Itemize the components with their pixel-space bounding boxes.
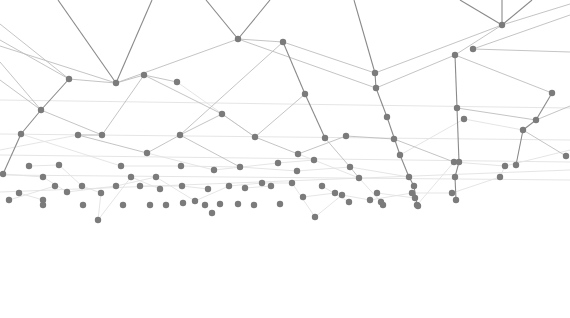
network-node [251,202,257,208]
network-node [98,190,104,196]
network-node [128,174,134,180]
network-node [452,174,458,180]
network-node [179,183,185,189]
network-node [66,76,72,82]
network-node [205,186,211,192]
network-node [380,202,386,208]
network-node [18,131,24,137]
network-node [289,180,295,186]
network-node [346,199,352,205]
network-node [397,152,403,158]
network-node [456,159,462,165]
network-node [113,80,119,86]
network-node [461,116,467,122]
network-node [372,70,378,76]
network-node [268,183,274,189]
network-node [549,90,555,96]
network-node [452,52,458,58]
network-node [312,214,318,220]
network-node [302,91,308,97]
network-node [38,107,44,113]
network-node [533,117,539,123]
network-node [513,162,519,168]
network-node [384,114,390,120]
network-node [412,195,418,201]
network-node [275,160,281,166]
network-node [332,190,338,196]
network-node [453,197,459,203]
network-node [95,217,101,223]
network-node [497,174,503,180]
network-node [311,157,317,163]
network-node [300,194,306,200]
network-node [147,202,153,208]
network-node [192,198,198,204]
network-node [157,186,163,192]
network-node [75,132,81,138]
network-node [235,201,241,207]
network-node [120,202,126,208]
network-node [237,164,243,170]
network-graphic [0,0,570,318]
plexus-network-svg [0,0,570,318]
network-node [277,201,283,207]
network-node [174,79,180,85]
network-node [211,167,217,173]
network-node [339,192,345,198]
network-node [16,190,22,196]
network-node [209,210,215,216]
network-node [180,200,186,206]
network-node [322,135,328,141]
network-node [118,163,124,169]
network-node [217,201,223,207]
network-node [178,163,184,169]
network-node [226,183,232,189]
network-node [79,183,85,189]
network-node [0,171,6,177]
network-node [319,183,325,189]
network-node [499,22,505,28]
network-node [454,105,460,111]
network-node [177,132,183,138]
network-node [374,190,380,196]
network-node [52,183,58,189]
network-node [163,202,169,208]
network-node [137,183,143,189]
network-node [113,183,119,189]
network-node [56,162,62,168]
network-node [141,72,147,78]
network-node [520,127,526,133]
network-node [153,174,159,180]
network-node [242,185,248,191]
network-node [406,174,412,180]
network-node [356,175,362,181]
network-node [64,189,70,195]
network-node [373,85,379,91]
network-node [144,150,150,156]
network-node [259,180,265,186]
network-node [295,151,301,157]
network-node [347,164,353,170]
network-node [343,133,349,139]
network-node [391,136,397,142]
network-node [235,36,241,42]
network-node [202,202,208,208]
network-node [80,202,86,208]
network-node [449,190,455,196]
network-node [470,46,476,52]
network-node [26,163,32,169]
network-node [367,197,373,203]
network-node [40,174,46,180]
network-node [415,203,421,209]
network-node [40,202,46,208]
network-node [294,168,300,174]
network-node [280,39,286,45]
network-node [219,111,225,117]
network-node [411,183,417,189]
network-node [99,132,105,138]
network-node [563,153,569,159]
network-node [502,163,508,169]
network-node [6,197,12,203]
network-node [252,134,258,140]
